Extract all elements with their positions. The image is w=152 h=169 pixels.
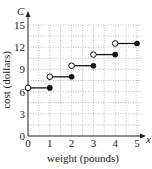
open-endpoint-icon bbox=[69, 63, 75, 69]
closed-endpoint-icon bbox=[91, 63, 97, 69]
open-endpoint-icon bbox=[91, 52, 97, 58]
y-tick-label: 6 bbox=[20, 86, 26, 98]
x-tick-label: 3 bbox=[91, 137, 97, 149]
open-endpoint-icon bbox=[112, 41, 118, 47]
closed-endpoint-icon bbox=[112, 52, 118, 58]
axes bbox=[26, 11, 147, 139]
step-chart: 01234503691215 C x weight (pounds) cost … bbox=[0, 0, 152, 169]
tick-labels: 01234503691215 bbox=[14, 19, 140, 149]
x-axis-label: weight (pounds) bbox=[47, 152, 119, 165]
step-segment bbox=[47, 74, 74, 80]
y-axis-label: cost (dollars) bbox=[0, 51, 13, 109]
x-axis-variable: x bbox=[145, 133, 151, 145]
x-tick-label: 1 bbox=[47, 137, 53, 149]
y-axis-arrow-icon bbox=[26, 11, 31, 17]
x-tick-label: 5 bbox=[134, 137, 140, 149]
x-tick-label: 2 bbox=[69, 137, 75, 149]
closed-endpoint-icon bbox=[69, 74, 75, 80]
y-tick-label: 15 bbox=[14, 19, 26, 31]
y-tick-label: 12 bbox=[14, 41, 25, 53]
y-axis-variable: C bbox=[17, 5, 25, 17]
y-tick-label: 0 bbox=[20, 130, 26, 142]
open-endpoint-icon bbox=[25, 85, 31, 91]
y-tick-label: 3 bbox=[20, 108, 26, 120]
closed-endpoint-icon bbox=[134, 41, 140, 47]
x-tick-label: 0 bbox=[25, 137, 31, 149]
x-tick-label: 4 bbox=[112, 137, 118, 149]
open-endpoint-icon bbox=[47, 74, 53, 80]
y-tick-label: 9 bbox=[20, 63, 26, 75]
grid bbox=[28, 25, 141, 136]
closed-endpoint-icon bbox=[47, 85, 53, 91]
